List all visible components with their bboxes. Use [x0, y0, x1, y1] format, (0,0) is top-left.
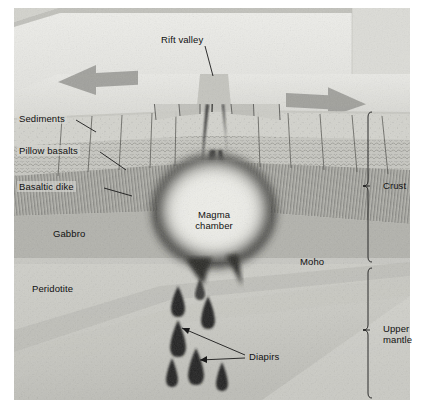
label-peridotite: Peridotite [32, 283, 73, 294]
label-magma-chamber-line1: Magma [175, 209, 253, 220]
label-gabbro: Gabbro [53, 228, 85, 239]
label-sediments: Sediments [17, 113, 67, 124]
label-pillow-basalts: Pillow basalts [17, 145, 80, 156]
label-moho: Moho [300, 256, 324, 267]
label-diapirs: Diapirs [249, 351, 279, 362]
label-magma-chamber-line2: chamber [175, 220, 253, 231]
label-basaltic-dike: Basaltic dike [17, 181, 76, 192]
label-upper-mantle-line2: mantle [383, 334, 412, 345]
label-crust: Crust [383, 180, 406, 191]
label-rift-valley: Rift valley [161, 34, 203, 45]
label-upper-mantle-line1: Upper [383, 323, 409, 334]
geologic-block-diagram: Rift valley Sediments Pillow basalts Bas… [0, 0, 431, 418]
